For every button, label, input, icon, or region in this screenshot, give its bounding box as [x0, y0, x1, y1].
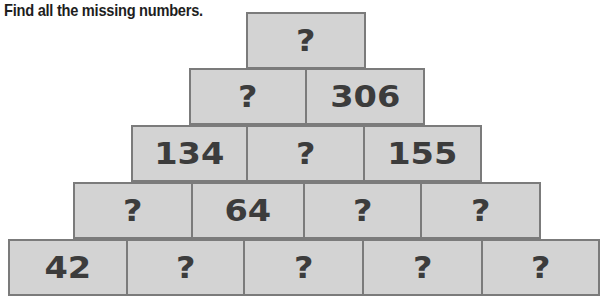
instruction-title: Find all the missing numbers. — [4, 1, 203, 21]
pyramid-cell[interactable]: ? — [73, 182, 193, 239]
cell-value: 64 — [225, 193, 272, 228]
pyramid-cell[interactable]: ? — [303, 182, 422, 239]
cell-value: ? — [296, 136, 315, 171]
pyramid-row-1: ? — [246, 12, 366, 69]
pyramid-cell[interactable]: ? — [189, 68, 307, 125]
cell-value: 42 — [45, 250, 92, 285]
cell-value: 306 — [330, 79, 400, 114]
cell-value: ? — [176, 250, 195, 285]
cell-value: ? — [531, 250, 550, 285]
cell-value: ? — [294, 250, 313, 285]
pyramid-cell[interactable]: ? — [481, 239, 600, 296]
pyramid-cell[interactable]: 134 — [131, 125, 248, 182]
pyramid-row-2: ? 306 — [189, 68, 425, 125]
cell-value: 155 — [387, 136, 457, 171]
pyramid-cell[interactable]: ? — [362, 239, 483, 296]
pyramid-cell[interactable]: 42 — [8, 239, 128, 296]
pyramid-row-3: 134 ? 155 — [131, 125, 482, 182]
pyramid-cell[interactable]: ? — [246, 125, 365, 182]
cell-value: ? — [471, 193, 490, 228]
cell-value: ? — [296, 23, 315, 58]
pyramid-row-5: 42 ? ? ? ? — [8, 239, 600, 296]
pyramid-row-4: ? 64 ? ? — [73, 182, 541, 239]
pyramid-cell[interactable]: ? — [246, 12, 366, 69]
cell-value: ? — [238, 79, 257, 114]
pyramid-cell[interactable]: ? — [126, 239, 245, 296]
pyramid-cell[interactable]: 155 — [363, 125, 482, 182]
cell-value: ? — [413, 250, 432, 285]
cell-value: ? — [123, 193, 142, 228]
pyramid-cell[interactable]: ? — [420, 182, 541, 239]
cell-value: 134 — [154, 136, 224, 171]
pyramid-cell[interactable]: ? — [243, 239, 364, 296]
pyramid-cell[interactable]: 306 — [305, 68, 425, 125]
pyramid-cell[interactable]: 64 — [191, 182, 305, 239]
cell-value: ? — [353, 193, 372, 228]
